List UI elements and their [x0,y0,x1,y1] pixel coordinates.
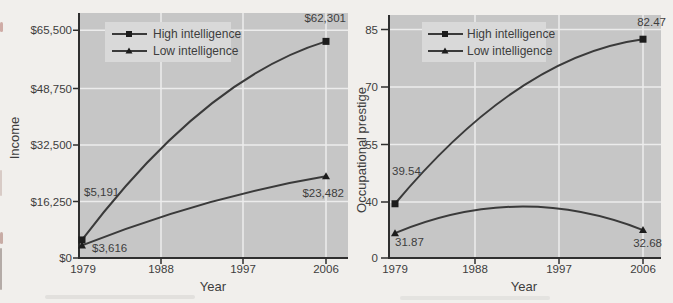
legend-label-high-intelligence: High intelligence [467,27,555,41]
data-point-label: 31.87 [395,236,424,248]
chart-occupational-prestige: 040557085197919881997200639.5482.4731.87… [354,15,666,294]
x-axis-title: Year [200,279,227,294]
y-tick-label: $32,500 [30,139,72,151]
x-tick-label: 2006 [630,263,656,275]
dual-line-chart-figure: $0$16,250$32,500$48,750$65,5001979198819… [0,0,673,303]
x-tick-label: 1988 [462,263,488,275]
legend-square-marker-icon [126,31,132,37]
y-tick-label: 0 [372,252,378,264]
data-point-label: $3,616 [92,242,127,254]
x-tick-label: 2006 [313,263,339,275]
y-axis-title: Occupational prestige [354,87,369,213]
x-tick-label: 1979 [382,263,408,275]
legend-square-marker-icon [442,31,448,37]
legend-label-low-intelligence: Low intelligence [467,44,553,58]
x-tick-label: 1988 [148,263,174,275]
data-point-square-marker [323,38,330,45]
legend-label-high-intelligence: High intelligence [153,27,241,41]
y-tick-label: 85 [365,24,378,36]
data-point-label: $62,301 [304,12,346,24]
data-point-label: 39.54 [392,165,421,177]
x-tick-label: 1997 [546,263,572,275]
data-point-square-marker [640,36,647,43]
x-axis-title: Year [511,279,538,294]
data-point-label: $5,191 [84,186,119,198]
y-tick-label: $48,750 [30,83,72,95]
data-point-label: 82.47 [637,16,666,28]
x-tick-label: 1979 [70,263,96,275]
figure-scan-page: $0$16,250$32,500$48,750$65,5001979198819… [0,0,673,303]
y-tick-label: $16,250 [30,196,72,208]
data-point-square-marker [392,200,399,207]
data-point-label: 32.68 [633,237,662,249]
y-axis-title: Income [7,117,22,160]
data-point-label: $23,482 [302,187,344,199]
y-tick-label: $65,500 [30,24,72,36]
chart-income: $0$16,250$32,500$48,750$65,5001979198819… [7,12,348,294]
legend-label-low-intelligence: Low intelligence [153,44,239,58]
x-tick-label: 1997 [230,263,256,275]
